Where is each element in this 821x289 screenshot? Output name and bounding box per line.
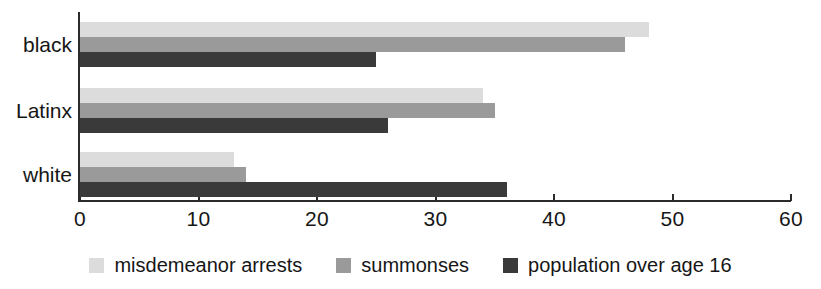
x-tick-label: 40: [542, 206, 566, 232]
legend-item[interactable]: misdemeanor arrests: [89, 253, 302, 277]
bar-chart: 0102030405060 blackLatinxwhite misdemean…: [0, 0, 821, 289]
bar: [80, 88, 483, 103]
legend-label: misdemeanor arrests: [114, 253, 302, 277]
x-tick-mark: [790, 194, 792, 201]
bar: [80, 167, 246, 182]
category-label-black: black: [23, 33, 72, 57]
plot-area: 0102030405060 blackLatinxwhite: [0, 0, 821, 210]
category-label-latinx: Latinx: [16, 99, 72, 123]
legend-label: summonses: [361, 253, 469, 277]
medium-gray-swatch: [336, 258, 351, 273]
x-tick-mark: [672, 194, 674, 201]
bar: [80, 52, 376, 67]
bar: [80, 37, 625, 52]
x-tick-mark: [553, 194, 555, 201]
legend-item[interactable]: population over age 16: [503, 253, 732, 277]
light-gray-swatch: [89, 258, 104, 273]
chart-legend: misdemeanor arrestssummonsespopulation o…: [0, 248, 821, 282]
x-tick-label: 30: [424, 206, 448, 232]
x-tick-label: 0: [74, 206, 86, 232]
bar: [80, 103, 495, 118]
dark-gray-swatch: [503, 258, 518, 273]
x-tick-label: 60: [779, 206, 803, 232]
bar: [80, 118, 388, 133]
x-tick-label: 20: [305, 206, 329, 232]
x-tick-label: 50: [661, 206, 685, 232]
bar: [80, 22, 649, 37]
bar: [80, 182, 507, 197]
legend-item[interactable]: summonses: [336, 253, 469, 277]
legend-label: population over age 16: [528, 253, 732, 277]
x-tick-label: 10: [187, 206, 211, 232]
category-label-white: white: [23, 163, 72, 187]
bar: [80, 152, 234, 167]
